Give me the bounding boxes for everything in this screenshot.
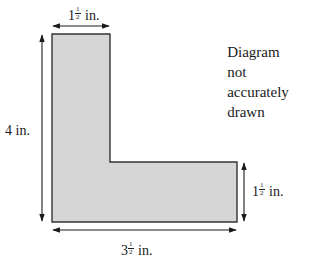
top-width-unit: in. (85, 8, 99, 23)
top-width-den: 2 (75, 14, 81, 21)
right-height-label: 112 in. (252, 185, 283, 200)
bottom-width-unit: in. (138, 243, 152, 258)
left-height-label: 4 in. (5, 124, 30, 138)
l-shape-diagram (0, 0, 318, 266)
right-height-fraction: 12 (259, 182, 265, 197)
top-width-label: 112 in. (68, 9, 99, 24)
right-height-whole: 1 (252, 184, 259, 199)
bottom-width-den: 2 (128, 249, 134, 256)
left-height-text: 4 in. (5, 123, 30, 138)
diagram-note: Diagram not accurately drawn (227, 42, 289, 122)
right-height-den: 2 (259, 190, 265, 197)
right-height-unit: in. (269, 184, 283, 199)
bottom-width-fraction: 12 (128, 241, 134, 256)
note-line-2: accurately drawn (227, 82, 289, 122)
l-shape (52, 34, 237, 222)
bottom-width-label: 312 in. (121, 244, 152, 259)
bottom-width-whole: 3 (121, 243, 128, 258)
note-line-1: Diagram not (227, 42, 289, 82)
top-width-whole: 1 (68, 8, 75, 23)
top-width-fraction: 12 (75, 6, 81, 21)
